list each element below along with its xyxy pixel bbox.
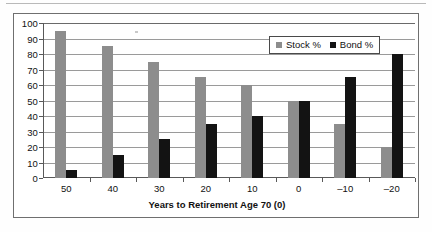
x-axis-tick-mark bbox=[183, 178, 184, 182]
x-axis-tick-label: –10 bbox=[337, 183, 353, 194]
y-axis-tick-label: 10 bbox=[27, 157, 38, 168]
bar-bond bbox=[392, 54, 403, 178]
y-axis-tick-label: 30 bbox=[27, 126, 38, 137]
bar-stock bbox=[381, 147, 392, 178]
x-axis-tick-label: 0 bbox=[296, 183, 301, 194]
bar-stock bbox=[241, 85, 252, 178]
x-axis-tick-mark bbox=[369, 178, 370, 182]
x-axis-tick-label: 20 bbox=[200, 183, 211, 194]
bar-bond bbox=[113, 155, 124, 178]
x-axis-title: Years to Retirement Age 70 (0) bbox=[14, 199, 420, 210]
legend-item-stock: Stock % bbox=[276, 39, 321, 50]
legend-item-bond: Bond % bbox=[330, 39, 373, 50]
y-axis-tick-label: 20 bbox=[27, 142, 38, 153]
chart-legend: Stock % Bond % bbox=[269, 36, 380, 54]
bar-stock bbox=[195, 77, 206, 178]
bar-bond bbox=[345, 77, 356, 178]
bar-stock bbox=[148, 62, 159, 178]
legend-swatch-stock-icon bbox=[276, 42, 282, 48]
x-axis-tick-label: 40 bbox=[107, 183, 118, 194]
y-axis-tick-label: 100 bbox=[22, 18, 38, 29]
x-axis-labels: 50403020100–10–20 bbox=[43, 183, 415, 197]
bar-bond bbox=[252, 116, 263, 178]
bar-stock bbox=[288, 101, 299, 179]
chart-page: 0102030405060708090100 50403020100–10–20… bbox=[0, 0, 432, 232]
bar-stock bbox=[55, 31, 66, 178]
bar-bond bbox=[159, 139, 170, 178]
y-axis-tick-label: 80 bbox=[27, 49, 38, 60]
legend-swatch-bond-icon bbox=[330, 42, 336, 48]
y-axis-tick-label: 60 bbox=[27, 80, 38, 91]
y-axis-tick-label: 0 bbox=[33, 173, 38, 184]
y-axis-tick-label: 70 bbox=[27, 64, 38, 75]
x-axis-tick-mark bbox=[415, 178, 416, 182]
x-axis-tick-label: 10 bbox=[247, 183, 258, 194]
x-axis-tick-label: 30 bbox=[154, 183, 165, 194]
bar-bond bbox=[66, 170, 77, 178]
x-axis-tick-label: 50 bbox=[61, 183, 72, 194]
x-axis-tick-mark bbox=[136, 178, 137, 182]
x-axis-tick-mark bbox=[322, 178, 323, 182]
y-axis-tick-label: 40 bbox=[27, 111, 38, 122]
legend-label-stock: Stock % bbox=[286, 39, 321, 50]
page-top-divider bbox=[6, 3, 426, 4]
chart-frame: 0102030405060708090100 50403020100–10–20… bbox=[13, 13, 419, 218]
bar-stock bbox=[334, 124, 345, 178]
legend-label-bond: Bond % bbox=[340, 39, 373, 50]
bar-bond bbox=[299, 101, 310, 179]
x-axis-tick-mark bbox=[90, 178, 91, 182]
y-axis-tick-label: 90 bbox=[27, 33, 38, 44]
bar-stock bbox=[102, 46, 113, 178]
x-axis-tick-mark bbox=[229, 178, 230, 182]
y-axis-tick-label: 50 bbox=[27, 95, 38, 106]
x-axis-tick-mark bbox=[276, 178, 277, 182]
bar-bond bbox=[206, 124, 217, 178]
x-axis-tick-label: –20 bbox=[384, 183, 400, 194]
y-axis-labels: 0102030405060708090100 bbox=[14, 23, 43, 178]
